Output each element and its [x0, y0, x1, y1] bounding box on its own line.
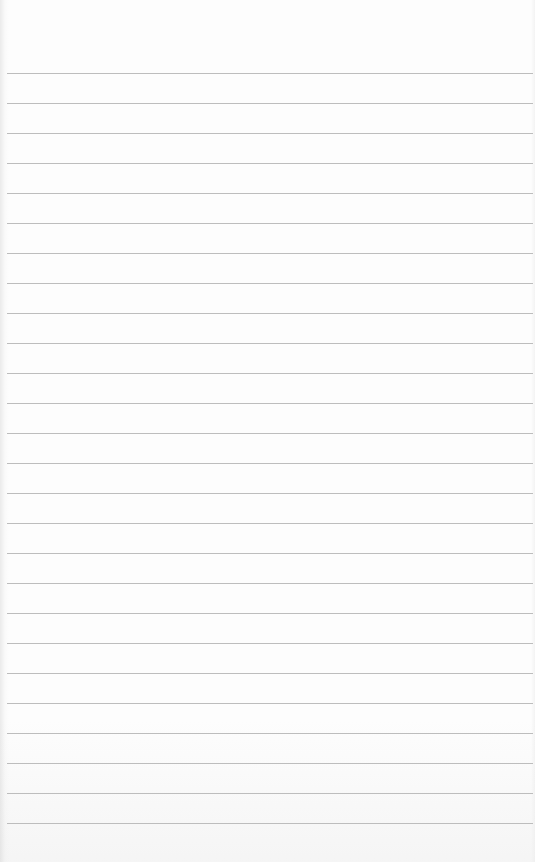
- ruled-line: [7, 493, 533, 494]
- ruled-line: [7, 283, 533, 284]
- ruled-line: [7, 613, 533, 614]
- ruled-line: [7, 823, 533, 824]
- ruled-line: [7, 673, 533, 674]
- ruled-line: [7, 253, 533, 254]
- ruled-line: [7, 133, 533, 134]
- ruled-line: [7, 403, 533, 404]
- ruled-line: [7, 523, 533, 524]
- ruled-line: [7, 643, 533, 644]
- ruled-line: [7, 73, 533, 74]
- ruled-line: [7, 433, 533, 434]
- ruled-line: [7, 343, 533, 344]
- ruled-line: [7, 463, 533, 464]
- ruled-line: [7, 553, 533, 554]
- ruled-line: [7, 793, 533, 794]
- ruled-line: [7, 223, 533, 224]
- ruled-line: [7, 763, 533, 764]
- ruled-line: [7, 193, 533, 194]
- ruled-line: [7, 703, 533, 704]
- ruled-line: [7, 163, 533, 164]
- ruled-line: [7, 373, 533, 374]
- ruled-line: [7, 313, 533, 314]
- ruled-line: [7, 583, 533, 584]
- ruled-line: [7, 733, 533, 734]
- ruled-notepad-page: [0, 0, 535, 862]
- ruled-line: [7, 103, 533, 104]
